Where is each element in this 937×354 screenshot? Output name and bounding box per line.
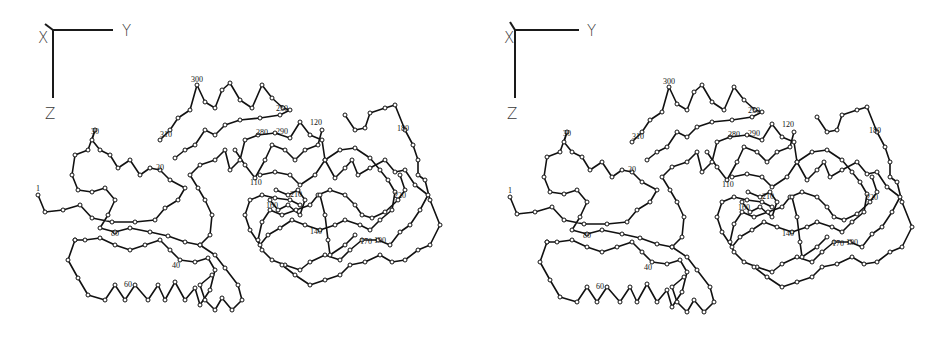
residue-label: 1	[508, 186, 512, 195]
c-alpha-atom	[732, 222, 736, 226]
c-alpha-atom	[570, 150, 574, 154]
c-alpha-atom	[83, 238, 87, 242]
c-alpha-atom	[558, 150, 562, 154]
c-alpha-atom	[682, 275, 686, 279]
c-alpha-atom	[862, 262, 866, 266]
c-alpha-atom	[820, 250, 824, 254]
c-alpha-atom	[685, 255, 689, 259]
c-alpha-atom	[755, 150, 759, 154]
c-alpha-atom	[66, 258, 70, 262]
c-alpha-atom	[298, 183, 302, 187]
c-alpha-atom	[223, 148, 227, 152]
c-alpha-atom	[73, 153, 77, 157]
c-alpha-atom	[605, 285, 609, 289]
residue-label: 40	[644, 263, 652, 272]
axis-triad: XYZ	[504, 22, 596, 123]
c-alpha-atom	[343, 218, 347, 222]
c-alpha-atom	[220, 296, 224, 300]
c-alpha-atom	[398, 173, 402, 177]
c-alpha-atom	[266, 233, 270, 237]
c-alpha-atom	[398, 230, 402, 234]
c-alpha-atom	[86, 148, 90, 152]
c-alpha-atom	[898, 195, 902, 199]
c-alpha-atom	[735, 160, 739, 164]
c-alpha-atom	[675, 102, 679, 106]
c-alpha-atom	[810, 275, 814, 279]
c-alpha-atom	[356, 173, 360, 177]
residue-label: 280	[728, 130, 740, 139]
c-alpha-atom	[303, 148, 307, 152]
c-alpha-atom	[168, 248, 172, 252]
c-alpha-atom	[210, 213, 214, 217]
c-alpha-atom	[732, 250, 736, 254]
c-alpha-atom	[585, 200, 589, 204]
c-alpha-atom	[775, 200, 779, 204]
c-alpha-atom	[825, 130, 829, 134]
c-alpha-atom	[146, 298, 150, 302]
c-alpha-atom	[243, 163, 247, 167]
c-alpha-atom	[792, 140, 796, 144]
c-alpha-atom	[203, 198, 207, 202]
c-alpha-atom	[618, 300, 622, 304]
c-alpha-atom	[353, 233, 357, 237]
c-alpha-atom	[762, 220, 766, 224]
residue-label: 110	[722, 180, 734, 189]
c-alpha-atom	[333, 176, 337, 180]
residue-label: 220	[394, 191, 406, 200]
c-alpha-atom	[76, 276, 80, 280]
c-alpha-atom	[760, 175, 764, 179]
c-alpha-atom	[695, 125, 699, 129]
c-alpha-atom	[393, 170, 397, 174]
c-alpha-atom	[348, 248, 352, 252]
c-alpha-atom	[770, 122, 774, 126]
c-alpha-atom	[438, 223, 442, 227]
c-alpha-atom	[428, 198, 432, 202]
c-alpha-atom	[722, 108, 726, 112]
c-alpha-atom	[308, 203, 312, 207]
c-alpha-atom	[416, 248, 420, 252]
c-alpha-atom	[173, 280, 177, 284]
c-alpha-atom	[562, 140, 566, 144]
c-alpha-atom	[870, 175, 874, 179]
c-alpha-atom	[710, 160, 714, 164]
c-alpha-atom	[585, 245, 589, 249]
c-alpha-atom	[665, 262, 669, 266]
c-alpha-atom	[675, 300, 679, 304]
c-alpha-atom	[408, 223, 412, 227]
c-alpha-atom	[213, 308, 217, 312]
c-alpha-atom	[600, 250, 604, 254]
c-alpha-atom	[153, 218, 157, 222]
c-alpha-atom	[270, 96, 274, 100]
c-alpha-atom	[865, 172, 869, 176]
c-alpha-atom	[113, 283, 117, 287]
c-alpha-atom	[815, 168, 819, 172]
c-alpha-atom	[620, 232, 624, 236]
c-alpha-atom	[320, 138, 324, 142]
c-alpha-atom	[358, 223, 362, 227]
c-alpha-atom	[278, 113, 282, 117]
c-alpha-atom	[288, 173, 292, 177]
c-alpha-atom	[316, 143, 320, 147]
c-alpha-atom	[198, 283, 202, 287]
residue-label: 250	[276, 104, 288, 113]
c-alpha-atom	[825, 148, 829, 152]
c-alpha-atom	[640, 180, 644, 184]
residue-label: 60	[596, 282, 604, 291]
c-alpha-atom	[680, 235, 684, 239]
residue-label: 140	[310, 227, 322, 236]
c-alpha-atom	[692, 90, 696, 94]
c-alpha-atom	[303, 198, 307, 202]
c-alpha-atom	[183, 186, 187, 190]
c-alpha-atom	[286, 203, 290, 207]
c-alpha-atom	[318, 193, 322, 197]
c-alpha-atom	[390, 260, 394, 264]
backbone-trace: 1203040608011012014016017018019021022025…	[36, 75, 442, 312]
c-alpha-atom	[193, 143, 197, 147]
c-alpha-atom	[630, 240, 634, 244]
c-alpha-atom	[416, 158, 420, 162]
c-alpha-atom	[700, 170, 704, 174]
c-alpha-atom	[840, 168, 844, 172]
c-alpha-atom	[562, 192, 566, 196]
c-alpha-atom	[298, 268, 302, 272]
c-alpha-atom	[638, 236, 642, 240]
